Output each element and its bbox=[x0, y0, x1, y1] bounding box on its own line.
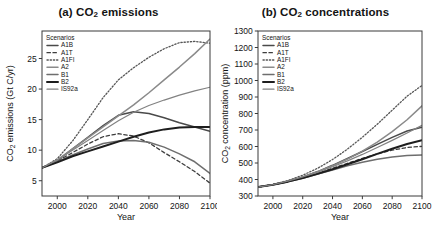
panel-b-concentrations: (b) CO2 concentrations 20002020204020602… bbox=[217, 0, 434, 241]
x-tick-label: 2060 bbox=[139, 201, 158, 211]
y-tick-label: 800 bbox=[239, 109, 253, 119]
y-tick-label: 500 bbox=[239, 158, 253, 168]
legend: ScenariosA1BA1TA1FIA2B1B2IS92a bbox=[46, 34, 78, 92]
legend-header: Scenarios bbox=[46, 34, 74, 41]
y-tick-label: 1000 bbox=[234, 76, 253, 86]
x-tick-label: 2000 bbox=[263, 201, 282, 211]
x-tick-label: 2100 bbox=[201, 201, 217, 211]
curve-B1 bbox=[42, 140, 210, 173]
legend-label-A1B: A1B bbox=[61, 41, 73, 48]
legend: ScenariosA1BA1TA1FIA2B1B2IS92a bbox=[262, 34, 294, 92]
x-tick-label: 2040 bbox=[109, 201, 128, 211]
legend-label-A1B: A1B bbox=[277, 41, 289, 48]
y-axis-label: CO2 concentration (ppm) bbox=[220, 64, 231, 164]
y-tick-label: 700 bbox=[239, 125, 253, 135]
panel-a-plot: 200020202040206020802100510152025YearCO2… bbox=[0, 0, 217, 241]
legend-label-B2: B2 bbox=[277, 78, 285, 85]
y-tick-label: 400 bbox=[239, 175, 253, 185]
y-tick-label: 15 bbox=[27, 115, 37, 125]
legend-label-A1T: A1T bbox=[61, 49, 73, 56]
x-tick-label: 2080 bbox=[383, 201, 402, 211]
panel-a-emissions: (a) CO2 emissions 2000202020402060208021… bbox=[0, 0, 217, 241]
legend-label-A2: A2 bbox=[277, 63, 285, 70]
y-tick-label: 1100 bbox=[235, 59, 254, 69]
panel-b-plot: 2000202020402060208021003004005006007008… bbox=[217, 0, 434, 241]
x-tick-label: 2020 bbox=[293, 201, 312, 211]
y-tick-label: 1200 bbox=[234, 43, 253, 53]
y-tick-label: 900 bbox=[239, 92, 253, 102]
legend-label-A1FI: A1FI bbox=[61, 56, 75, 63]
legend-label-B2: B2 bbox=[61, 78, 69, 85]
x-tick-label: 2020 bbox=[78, 201, 97, 211]
svg-text:CO2 emissions (Gt C/yr): CO2 emissions (Gt C/yr) bbox=[5, 65, 16, 162]
y-tick-label: 600 bbox=[239, 142, 253, 152]
legend-label-B1: B1 bbox=[61, 71, 69, 78]
y-tick-label: 20 bbox=[27, 84, 37, 94]
x-tick-label: 2000 bbox=[48, 201, 67, 211]
y-tick-label: 300 bbox=[239, 191, 253, 201]
legend-label-IS92a: IS92a bbox=[61, 85, 78, 92]
legend-label-A1FI: A1FI bbox=[277, 56, 291, 63]
x-axis-label: Year bbox=[331, 212, 349, 222]
y-axis-label: CO2 emissions (Gt C/yr) bbox=[5, 65, 16, 162]
legend-label-IS92a: IS92a bbox=[277, 85, 294, 92]
figure-co2-scenarios: (a) CO2 emissions 2000202020402060208021… bbox=[0, 0, 434, 241]
legend-label-B1: B1 bbox=[277, 71, 285, 78]
curve-A1FI bbox=[258, 85, 422, 187]
legend-header: Scenarios bbox=[262, 34, 290, 41]
curves-group bbox=[258, 85, 422, 187]
x-tick-label: 2040 bbox=[323, 201, 342, 211]
x-tick-label: 2100 bbox=[413, 201, 432, 211]
y-tick-label: 5 bbox=[32, 176, 37, 186]
legend-label-A2: A2 bbox=[61, 63, 69, 70]
x-tick-label: 2060 bbox=[353, 201, 372, 211]
legend-label-A1T: A1T bbox=[277, 49, 289, 56]
y-tick-label: 10 bbox=[27, 145, 37, 155]
x-tick-label: 2080 bbox=[170, 201, 189, 211]
svg-text:CO2 concentration (ppm): CO2 concentration (ppm) bbox=[220, 64, 231, 164]
x-axis-label: Year bbox=[117, 212, 135, 222]
y-tick-label: 1300 bbox=[234, 26, 253, 36]
y-tick-label: 25 bbox=[27, 54, 37, 64]
